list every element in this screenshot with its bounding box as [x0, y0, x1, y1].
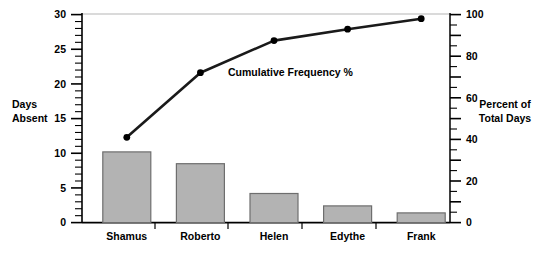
- right-axis-title-line2: Total Days: [479, 112, 531, 124]
- pareto-chart-figure: 0 5 10 15 20 25 30 Days Absent: [0, 0, 551, 258]
- left-axis-title-line2: Absent: [12, 112, 48, 124]
- category-separators: [155, 223, 376, 229]
- left-axis-title-line1: Days: [12, 98, 37, 110]
- bar-roberto: [176, 164, 224, 223]
- right-tick-label: 100: [466, 8, 484, 20]
- cumulative-point-shamus: [123, 134, 130, 141]
- category-label-frank: Frank: [407, 230, 436, 242]
- category-label-helen: Helen: [260, 230, 289, 242]
- bar-series: [103, 152, 445, 223]
- category-labels: Shamus Roberto Helen Edythe Frank: [106, 230, 435, 242]
- cumulative-point-edythe: [344, 26, 351, 33]
- left-tick-labels: 0 5 10 15 20 25 30: [54, 8, 66, 228]
- left-axis-title: Days Absent: [12, 98, 48, 124]
- category-label-shamus: Shamus: [106, 230, 147, 242]
- cumulative-frequency-annotation: Cumulative Frequency %: [228, 66, 354, 78]
- bar-edythe: [324, 206, 372, 223]
- category-label-roberto: Roberto: [180, 230, 220, 242]
- right-axis-title: Percent of Total Days: [479, 98, 531, 124]
- bar-shamus: [103, 152, 151, 223]
- bar-helen: [250, 194, 298, 223]
- left-tick-label: 10: [54, 147, 66, 159]
- cumulative-point-helen: [271, 37, 278, 44]
- cumulative-line-series: [123, 15, 424, 140]
- bar-frank: [397, 213, 445, 223]
- category-label-edythe: Edythe: [330, 230, 365, 242]
- right-axis-title-line1: Percent of: [479, 98, 531, 110]
- figure-caption: [0, 246, 551, 258]
- left-tick-label: 20: [54, 78, 66, 90]
- left-tick-label: 15: [54, 112, 66, 124]
- right-tick-label: 60: [466, 92, 478, 104]
- cumulative-point-roberto: [197, 69, 204, 76]
- chart-canvas: 0 5 10 15 20 25 30 Days Absent: [0, 0, 551, 258]
- cumulative-line: [127, 19, 421, 138]
- right-tick-label: 40: [466, 133, 478, 145]
- left-axis-major-ticks: [71, 15, 82, 223]
- left-tick-label: 0: [60, 216, 66, 228]
- right-tick-label: 80: [466, 50, 478, 62]
- left-tick-label: 30: [54, 8, 66, 20]
- cumulative-point-frank: [418, 15, 425, 22]
- right-tick-label: 20: [466, 175, 478, 187]
- left-tick-label: 5: [60, 182, 66, 194]
- left-tick-label: 25: [54, 43, 66, 55]
- right-tick-label: 0: [466, 216, 472, 228]
